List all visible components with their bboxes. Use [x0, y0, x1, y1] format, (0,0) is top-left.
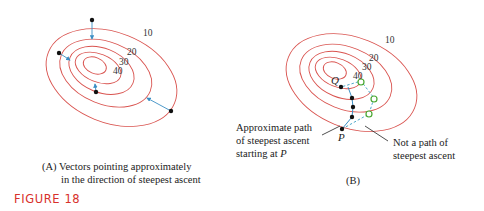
caption-b: (B)	[346, 174, 360, 187]
non-steepest-path	[341, 81, 374, 129]
caption-a-line1: (A) Vectors pointing approximately	[42, 160, 191, 173]
panel-a-contours	[32, 10, 192, 144]
contour-label-10-b: 10	[385, 36, 395, 46]
panel-b-path-points	[339, 85, 355, 131]
caption-a-line2: in the direction of steepest ascent	[61, 173, 201, 186]
point-q-label: Q	[331, 74, 339, 86]
contour-label-10-a: 10	[143, 29, 153, 39]
figure-label: FIGURE 18	[14, 192, 80, 206]
annotation-approx-path: Approximate path of steepest ascent star…	[236, 121, 312, 160]
contour-label-40-b: 40	[353, 72, 363, 82]
contour-label-30-b: 30	[362, 63, 372, 73]
contour-peak-a	[81, 54, 109, 78]
contour-10-a	[32, 10, 192, 144]
contour-label-40-a: 40	[113, 67, 123, 77]
leader-right	[365, 126, 388, 141]
contour-20-a	[50, 26, 162, 119]
annotation-not-path: Not a path of steepest ascent	[393, 136, 455, 162]
point-p-label: P	[338, 131, 345, 143]
